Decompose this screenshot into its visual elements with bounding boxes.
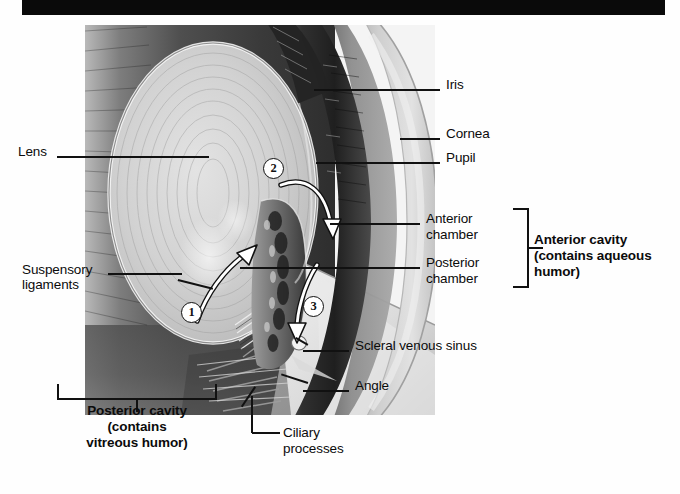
label-posterior-cavity-line1: Posterior cavity: [37, 403, 237, 419]
bracket-anterior-cavity: [513, 208, 529, 288]
label-iris: Iris: [446, 77, 464, 93]
leader-scleral-venous-sinus: [303, 350, 349, 352]
marker-2-number: 2: [270, 162, 276, 175]
leader-ciliary-processes-riser: [251, 396, 253, 433]
label-anterior-chamber-line2: chamber: [426, 227, 478, 243]
header-bar: [22, 0, 665, 15]
leader-lens: [57, 156, 209, 158]
label-anterior-cavity-line2: (contains aqueous: [534, 248, 652, 264]
label-scleral-venous-sinus: Scleral venous sinus: [355, 338, 477, 354]
leader-posterior-chamber: [240, 267, 420, 269]
label-ciliary-processes-line2: processes: [283, 441, 344, 457]
label-suspensory-ligaments-line2: ligaments: [22, 277, 79, 293]
label-posterior-cavity-line2: (contains: [37, 419, 237, 435]
leader-iris: [314, 89, 440, 91]
marker-2: 2: [263, 158, 284, 179]
marker-1: 1: [181, 302, 202, 323]
leader-anterior-chamber: [330, 223, 420, 225]
label-lens: Lens: [18, 144, 47, 160]
leader-cornea: [400, 138, 440, 140]
leader-suspensory-ligaments: [108, 273, 182, 275]
label-anterior-cavity-line3: humor): [534, 264, 580, 280]
label-posterior-cavity-line3: vitreous humor): [37, 435, 237, 451]
marker-1-number: 1: [188, 306, 194, 319]
label-anterior-cavity-line1: Anterior cavity: [534, 232, 627, 248]
eye-illustration: [85, 25, 435, 415]
label-suspensory-ligaments-line1: Suspensory: [22, 262, 92, 278]
label-pupil: Pupil: [446, 150, 476, 166]
marker-3-number: 3: [310, 300, 316, 313]
label-ciliary-processes-line1: Ciliary: [283, 425, 320, 441]
marker-3: 3: [303, 296, 324, 317]
leader-pupil: [316, 162, 440, 164]
bracket-posterior-cavity: [57, 384, 217, 400]
label-anterior-chamber-line1: Anterior: [426, 211, 472, 227]
leader-ciliary-processes: [252, 432, 280, 434]
label-angle: Angle: [355, 378, 389, 394]
label-posterior-chamber-line1: Posterior: [426, 255, 479, 271]
label-cornea: Cornea: [446, 126, 490, 142]
leader-angle: [303, 390, 349, 392]
figure-stage: 2 1 3 Lens Suspensory ligaments Posterio…: [0, 0, 680, 494]
label-posterior-chamber-line2: chamber: [426, 271, 478, 287]
